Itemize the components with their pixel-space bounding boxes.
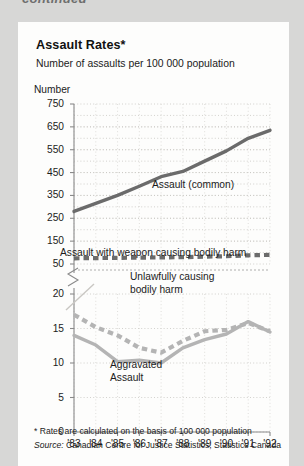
- y-axis-tick: 15: [30, 323, 64, 334]
- y-axis-tick: 5: [30, 392, 64, 403]
- y-axis-tick: 150: [30, 235, 64, 246]
- series-annotation: Assault (common): [152, 178, 234, 191]
- source-text: Canadian Centre for Justice Statistics, …: [66, 440, 281, 450]
- continued-label: continued: [22, 0, 87, 6]
- chart-footnote: * Rates are calculated on the basis of 1…: [34, 426, 252, 436]
- series-annotation: bodily harm: [130, 283, 183, 296]
- chart-card: Assault Rates* Number of assaults per 10…: [18, 22, 289, 466]
- y-axis-tick: 250: [30, 212, 64, 223]
- y-axis-tick: 50: [30, 258, 64, 269]
- source-label: Source:: [34, 440, 64, 450]
- y-axis-tick: 20: [30, 288, 64, 299]
- series-annotation: Assault with weapon causing bodily harm: [60, 246, 246, 259]
- series-annotation: Aggravated: [110, 358, 162, 371]
- y-axis-tick: 350: [30, 189, 64, 200]
- y-axis-tick: 550: [30, 144, 64, 155]
- series-annotation: Assault: [110, 371, 143, 384]
- y-axis-tick: 750: [30, 98, 64, 109]
- continued-band: continued: [0, 0, 304, 22]
- chart-source: Source: Canadian Centre for Justice Stat…: [34, 440, 281, 450]
- series-annotation: Unlawfully causing: [130, 270, 214, 283]
- y-axis-tick: 450: [30, 167, 64, 178]
- y-axis-tick: 10: [30, 357, 64, 368]
- y-axis-tick: 650: [30, 121, 64, 132]
